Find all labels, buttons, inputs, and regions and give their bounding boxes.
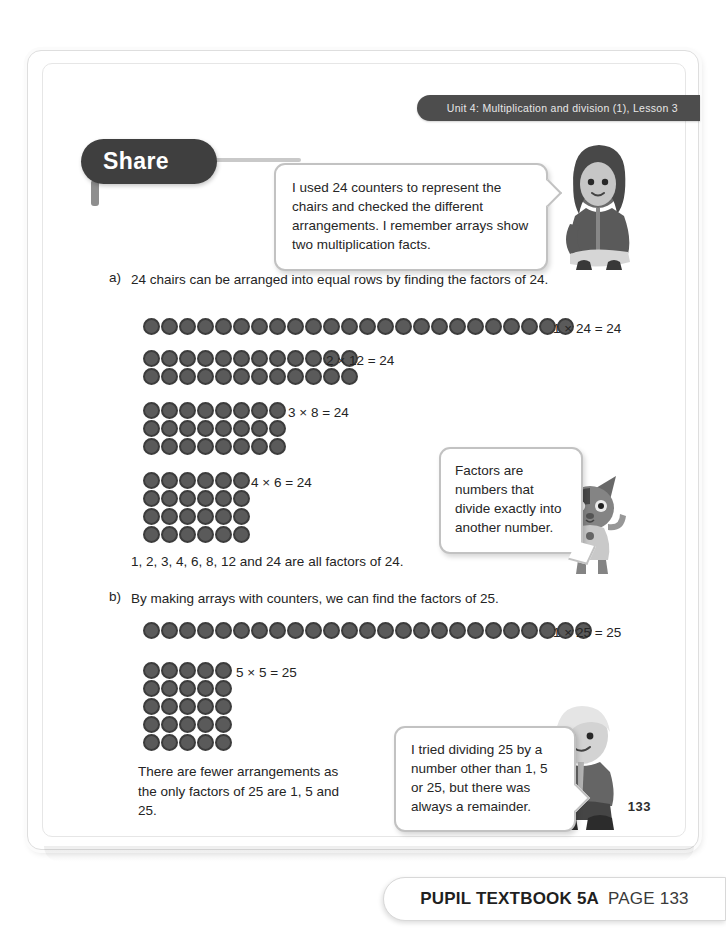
counter-dot <box>179 420 196 437</box>
counter-dot <box>197 508 214 525</box>
share-tab-stub <box>91 180 99 206</box>
counter-dot <box>233 490 250 507</box>
counter-dot <box>233 420 250 437</box>
counter-dot <box>233 368 250 385</box>
counter-array-1x24 <box>143 318 574 336</box>
counter-dot <box>233 402 250 419</box>
counter-dot <box>269 350 286 367</box>
counter-dot <box>215 420 232 437</box>
counter-dot <box>161 438 178 455</box>
counter-dot <box>503 622 520 639</box>
textbook-page: Unit 4: Multiplication and division (1),… <box>0 0 726 950</box>
counter-dot <box>143 472 160 489</box>
unit-banner: Unit 4: Multiplication and division (1),… <box>417 95 700 121</box>
counter-dot <box>251 350 268 367</box>
footer-bar: PUPIL TEXTBOOK 5A PAGE 133 <box>383 877 726 921</box>
counter-dot <box>197 368 214 385</box>
speech-bubble-remainder: I tried dividing 25 by a number other th… <box>394 726 576 832</box>
counter-dot <box>161 662 178 679</box>
counter-row <box>143 368 358 385</box>
counter-dot <box>449 622 466 639</box>
counter-dot <box>143 716 160 733</box>
counter-dot <box>269 420 286 437</box>
counter-dot <box>143 438 160 455</box>
counter-dot <box>251 622 268 639</box>
part-a-summary: 1, 2, 3, 4, 6, 8, 12 and 24 are all fact… <box>131 552 571 572</box>
counter-row <box>143 680 232 697</box>
counter-dot <box>161 472 178 489</box>
counter-dot <box>251 402 268 419</box>
counter-dot <box>179 716 196 733</box>
counter-dot <box>215 526 232 543</box>
counter-dot <box>233 526 250 543</box>
counter-dot <box>467 622 484 639</box>
counter-dot <box>215 508 232 525</box>
counter-dot <box>143 680 160 697</box>
counter-dot <box>143 622 160 639</box>
counter-row <box>143 508 250 525</box>
counter-row <box>143 490 250 507</box>
girl-character <box>548 138 652 270</box>
counter-dot <box>179 734 196 751</box>
counter-dot <box>359 318 376 335</box>
counter-dot <box>179 490 196 507</box>
counter-dot <box>197 318 214 335</box>
footer-page-label: PAGE 133 <box>608 889 689 909</box>
counter-dot <box>197 622 214 639</box>
speech-bubble-intro: I used 24 counters to represent the chai… <box>274 163 548 271</box>
counter-dot <box>179 368 196 385</box>
counter-dot <box>485 318 502 335</box>
counter-dot <box>287 350 304 367</box>
counter-dot <box>179 438 196 455</box>
counter-array-1x25 <box>143 622 592 640</box>
part-a-label: a) <box>109 270 131 285</box>
counter-dot <box>233 350 250 367</box>
counter-array-3x8 <box>143 402 286 456</box>
counter-dot <box>215 472 232 489</box>
counter-dot <box>341 368 358 385</box>
speech-bubble-factors: Factors are numbers that divide exactly … <box>439 447 583 554</box>
counter-dot <box>197 716 214 733</box>
counter-dot <box>233 318 250 335</box>
counter-row <box>143 734 232 751</box>
counter-dot <box>305 368 322 385</box>
counter-dot <box>179 662 196 679</box>
counter-dot <box>323 318 340 335</box>
counter-dot <box>269 622 286 639</box>
counter-dot <box>503 318 520 335</box>
counter-dot <box>197 438 214 455</box>
counter-row <box>143 526 250 543</box>
share-tab[interactable]: Share <box>81 139 217 184</box>
counter-dot <box>197 350 214 367</box>
part-a-text: 24 chairs can be arranged into equal row… <box>131 270 551 290</box>
counter-dot <box>161 734 178 751</box>
part-b-label: b) <box>109 589 131 604</box>
counter-dot <box>197 490 214 507</box>
page-curl-shadow <box>44 846 694 862</box>
counter-dot <box>197 698 214 715</box>
counter-dot <box>161 680 178 697</box>
speech-bubble-remainder-text: I tried dividing 25 by a number other th… <box>411 740 560 817</box>
equation-4x6: 4 × 6 = 24 <box>251 475 312 490</box>
counter-row <box>143 662 232 679</box>
counter-dot <box>413 622 430 639</box>
counter-dot <box>143 698 160 715</box>
counter-dot <box>143 368 160 385</box>
counter-dot <box>143 420 160 437</box>
counter-dot <box>305 622 322 639</box>
counter-dot <box>413 318 430 335</box>
counter-dot <box>197 662 214 679</box>
part-b-text: By making arrays with counters, we can f… <box>131 589 571 609</box>
counter-dot <box>215 318 232 335</box>
counter-dot <box>521 622 538 639</box>
counter-dot <box>179 402 196 419</box>
counter-dot <box>215 490 232 507</box>
counter-dot <box>323 368 340 385</box>
counter-dot <box>143 350 160 367</box>
counter-dot <box>179 508 196 525</box>
counter-row <box>143 716 232 733</box>
equation-1x25: 1 × 25 = 25 <box>553 625 621 640</box>
counter-dot <box>161 350 178 367</box>
counter-dot <box>179 622 196 639</box>
counter-dot <box>215 698 232 715</box>
